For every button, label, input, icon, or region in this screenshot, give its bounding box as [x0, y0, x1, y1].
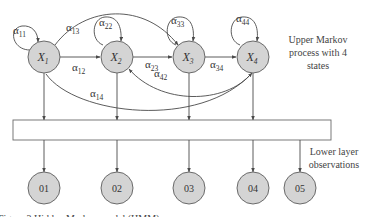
label-a44: α44	[236, 12, 250, 27]
svg-text:02: 02	[112, 183, 122, 194]
state-node-x4: X4	[237, 41, 269, 73]
lower-layer-note: Lower layer observations	[309, 146, 360, 170]
state-node-x3: X3	[173, 41, 205, 73]
svg-text:05: 05	[295, 183, 305, 194]
edge-a14	[46, 73, 252, 110]
label-a22: α22	[99, 16, 113, 31]
state-node-x1: X1	[28, 41, 60, 73]
observation-node-2: 02	[101, 172, 133, 204]
hmm-diagram: X1 X2 X3 X4 01 02 03 04 05 α11 α22 α33 α…	[0, 0, 372, 217]
svg-text:Upper Markov: Upper Markov	[288, 34, 347, 45]
upper-process-note: Upper Markov process with 4 states	[288, 34, 347, 71]
svg-text:observations: observations	[309, 159, 360, 170]
svg-text:01: 01	[39, 183, 49, 194]
label-a42: α42	[154, 67, 168, 82]
figure-caption: Figure 3 Hidden Markov model (HMM) ...	[0, 213, 169, 217]
observation-node-4: 04	[237, 172, 269, 204]
label-a33: α33	[171, 14, 185, 29]
svg-text:states: states	[307, 60, 329, 71]
label-a13: α13	[66, 21, 80, 36]
label-a14: α14	[90, 87, 104, 102]
observation-node-1: 01	[28, 172, 60, 204]
state-node-x2: X2	[101, 41, 133, 73]
observation-node-5: 05	[284, 172, 316, 204]
svg-text:03: 03	[184, 183, 194, 194]
label-a34: α34	[210, 58, 224, 73]
observation-node-3: 03	[173, 172, 205, 204]
svg-text:process with 4: process with 4	[289, 47, 347, 58]
svg-text:Lower layer: Lower layer	[310, 146, 359, 157]
label-a12: α12	[72, 61, 86, 76]
svg-text:04: 04	[248, 183, 258, 194]
emission-box	[13, 120, 331, 140]
